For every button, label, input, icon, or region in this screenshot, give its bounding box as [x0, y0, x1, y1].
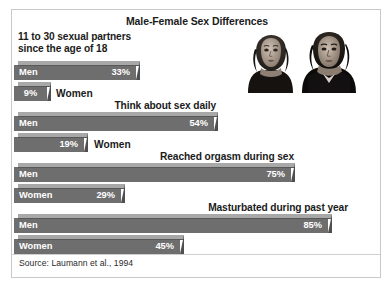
bar-series-label-men-3: Men	[19, 167, 38, 182]
bar-value-men-3: 75%	[266, 167, 285, 182]
bar-value-men-4: 85%	[303, 218, 322, 233]
bar-value-women-2: 19%	[59, 137, 78, 152]
bar-women-3: Women 29%	[14, 188, 121, 203]
category-heading-1-line1: 11 to 30 sexual partners	[18, 31, 131, 43]
source-citation: Source: Laumann et al., 1994	[19, 258, 133, 268]
bar-value-men-2: 54%	[189, 116, 208, 131]
couple-photo	[230, 31, 375, 93]
bar-women-2: 19%	[14, 137, 84, 152]
bar-men-4: Men 85%	[14, 218, 328, 233]
bar-value-women-1: 9%	[14, 86, 47, 101]
bar-series-label-men-4: Men	[19, 218, 38, 233]
chart-figure: Male-Female Sex Differences 11 to 30 sex…	[11, 9, 381, 278]
bar-men-1: Men 33%	[14, 65, 136, 80]
category-heading-4: Masturbated during past year	[12, 202, 348, 214]
bar-series-label-women-1: Women	[56, 86, 93, 101]
bar-men-3: Men 75%	[14, 167, 291, 182]
bar-women-4: Women 45%	[14, 239, 180, 254]
bar-series-label-women-4: Women	[19, 239, 52, 254]
bar-series-label-men-2: Men	[19, 116, 38, 131]
bar-value-men-1: 33%	[111, 65, 130, 80]
bar-series-label-women-3: Women	[19, 188, 52, 203]
category-heading-3: Reached orgasm during sex	[12, 151, 294, 163]
bar-men-2: Men 54%	[14, 116, 214, 131]
bar-value-women-4: 45%	[155, 239, 174, 254]
bar-series-label-women-2: Women	[94, 137, 131, 152]
category-heading-2: Think about sex daily	[12, 100, 216, 112]
chart-title: Male-Female Sex Differences	[12, 15, 381, 27]
bar-value-women-3: 29%	[96, 188, 115, 203]
bar-women-1: 9%	[14, 86, 47, 101]
category-heading-1-line2: since the age of 18	[18, 43, 107, 55]
source-divider	[12, 254, 381, 255]
bar-series-label-men-1: Men	[19, 65, 38, 80]
